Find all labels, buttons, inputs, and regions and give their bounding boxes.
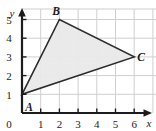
coordinate-plane-svg: 0 1 2 3 4 5 6 1 2 3 4 5 y x A B C [0,0,156,131]
vertex-label-a: A [24,101,33,113]
x-tick-label-1: 1 [38,118,44,130]
x-axis-label: x [146,117,152,129]
y-tick-label-2: 2 [6,70,12,82]
y-tick-label-1: 1 [6,89,12,101]
x-tick-label-6: 6 [131,118,137,130]
x-tick-label-4: 4 [94,118,100,130]
x-tick-label-2: 2 [57,118,63,130]
vertex-label-c: C [137,51,145,63]
y-axis-label: y [9,7,15,19]
y-tick-label-3: 3 [6,51,12,63]
y-tick-label-4: 4 [6,32,12,44]
x-tick-label-3: 3 [75,118,81,130]
x-tick-label-5: 5 [113,118,119,130]
coordinate-plane-figure: 0 1 2 3 4 5 6 1 2 3 4 5 y x A B C [0,0,156,131]
x-tick-label-0: 0 [6,118,12,130]
vertex-label-b: B [51,5,60,17]
